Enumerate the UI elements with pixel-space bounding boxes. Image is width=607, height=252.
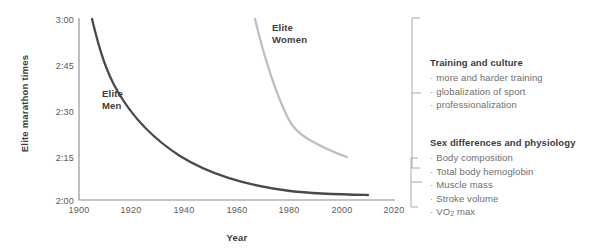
annotation-item: ·more and harder training: [430, 71, 607, 85]
annotation-item-text: VO2 max: [436, 206, 475, 217]
annotation-item-text: globalization of sport: [436, 86, 525, 97]
annotation-heading: Training and culture: [430, 57, 607, 68]
bullet-icon: ·: [430, 86, 433, 97]
axis-lines: [79, 18, 395, 200]
bullet-icon: ·: [430, 193, 433, 204]
annotation-item: ·globalization of sport: [430, 85, 607, 99]
annotation-item-text: more and harder training: [436, 72, 542, 83]
bullet-icon: ·: [430, 99, 433, 110]
chart-svg: [0, 0, 400, 252]
series-line-elite-men: [92, 19, 368, 195]
chart-area: Elite marathon times 3:00 2:45 2:30 2:15…: [0, 0, 400, 252]
annotation-item: ·Body composition: [430, 151, 607, 165]
annotation-item-text: Total body hemoglobin: [436, 166, 533, 177]
annotation-group-sex-differences-and-physiology: Sex differences and physiology ·Body com…: [430, 137, 607, 221]
annotation-heading: Sex differences and physiology: [430, 137, 607, 148]
series-label-elite-women: Elite Women: [272, 22, 307, 46]
series-label-elite-men: Elite Men: [102, 88, 123, 112]
x-axis-title: Year: [79, 232, 395, 243]
annotation-item: ·Stroke volume: [430, 192, 607, 206]
bracket-training-and-culture: [412, 18, 421, 168]
annotation-item: ·professionalization: [430, 98, 607, 112]
annotation-group-training-and-culture: Training and culture ·more and harder tr…: [430, 57, 607, 112]
bullet-icon: ·: [430, 72, 433, 83]
bullet-icon: ·: [430, 152, 433, 163]
annotation-item: ·Muscle mass: [430, 178, 607, 192]
annotation-item: ·Total body hemoglobin: [430, 165, 607, 179]
bracket-sex-differences: [411, 158, 422, 207]
annotation-item: ·VO2 max: [430, 205, 607, 221]
annotation-item-text: Muscle mass: [436, 179, 493, 190]
annotation-panel: Training and culture ·more and harder tr…: [404, 0, 607, 252]
bullet-icon: ·: [430, 166, 433, 177]
figure-root: Elite marathon times 3:00 2:45 2:30 2:15…: [0, 0, 607, 252]
annotation-item-text: Body composition: [436, 152, 513, 163]
bullet-icon: ·: [430, 206, 433, 217]
bullet-icon: ·: [430, 179, 433, 190]
annotation-item-text: professionalization: [436, 99, 517, 110]
annotation-item-text: Stroke volume: [436, 193, 498, 204]
